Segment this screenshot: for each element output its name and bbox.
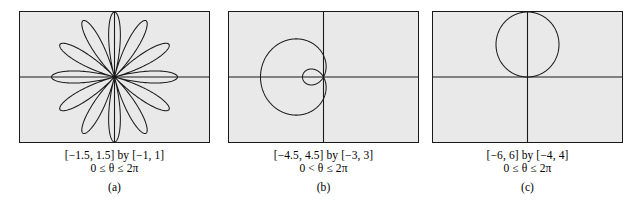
polar-graphs-figure: [−1.5, 1.5] by [−1, 1] 0 ≤ θ ≤ 2π (a) [−… <box>0 0 632 201</box>
panel-label-a: (a) <box>12 180 217 194</box>
panel-b: [−4.5, 4.5] by [−3, 3] 0 < θ ≤ 2π (b) <box>221 0 426 201</box>
window-caption-b: [−4.5, 4.5] by [−3, 3] <box>221 148 426 162</box>
plot-frame-c <box>432 11 623 143</box>
polar-plot-c <box>433 12 622 142</box>
range-caption-c: 0 ≤ θ ≤ 2π <box>425 161 630 175</box>
range-caption-a: 0 ≤ θ ≤ 2π <box>12 161 217 175</box>
panel-c: [−6, 6] by [−4, 4] 0 ≤ θ ≤ 2π (c) <box>425 0 630 201</box>
plot-frame-b <box>228 11 419 143</box>
range-caption-b: 0 < θ ≤ 2π <box>221 161 426 175</box>
panel-label-c: (c) <box>425 180 630 194</box>
window-caption-c: [−6, 6] by [−4, 4] <box>425 148 630 162</box>
polar-plot-b <box>229 12 418 142</box>
polar-plot-a <box>20 12 209 142</box>
panel-a: [−1.5, 1.5] by [−1, 1] 0 ≤ θ ≤ 2π (a) <box>12 0 217 201</box>
panel-label-b: (b) <box>221 180 426 194</box>
plot-frame-a <box>19 11 210 143</box>
window-caption-a: [−1.5, 1.5] by [−1, 1] <box>12 148 217 162</box>
